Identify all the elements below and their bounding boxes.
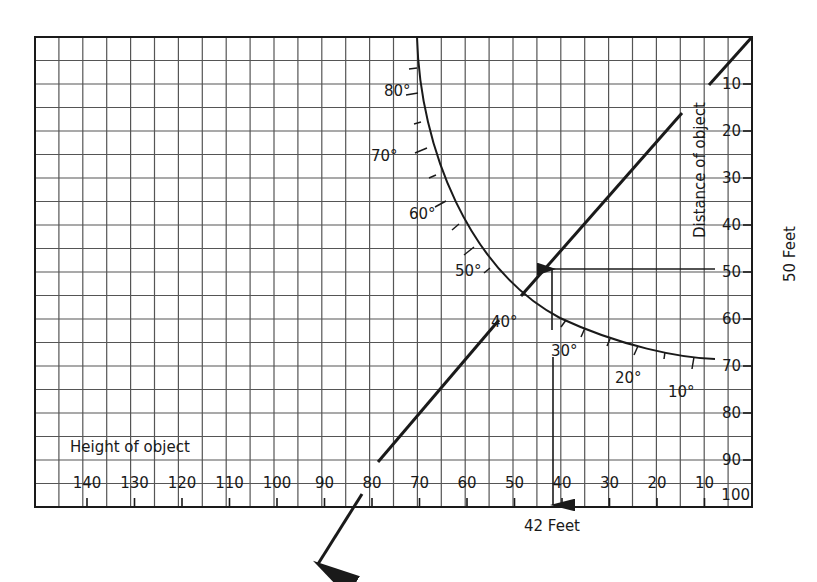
height-tick-label: 100 [263,474,292,492]
height-tick-label: 140 [73,474,102,492]
angle-arc-ticks [406,68,694,369]
angle-label: 60° [409,205,436,223]
distance-tick-label: 20 [722,122,741,140]
height-tick-label: 120 [168,474,197,492]
height-tick-label: 40 [552,474,571,492]
height-result-label: 42 Feet [524,517,580,535]
height-tick-label: 130 [120,474,149,492]
distance-tick-label: 50 [722,263,741,281]
height-tick-label: 10 [695,474,714,492]
sight-line [318,37,752,564]
angle-label: 70° [371,147,398,165]
height-tick-label: 70 [410,474,429,492]
height-tick-label: 20 [647,474,666,492]
distance-tick-label: 70 [722,357,741,375]
height-tick-label: 80 [362,474,381,492]
angle-label: 10° [668,383,695,401]
height-axis-title: Height of object [70,438,190,456]
height-tick-label: 90 [315,474,334,492]
distance-tick-label: 90 [722,451,741,469]
distance-axis-ticks [743,84,752,460]
distance-tick-label: 30 [722,169,741,187]
distance-tick-label: 80 [722,404,741,422]
angle-label: 30° [551,342,578,360]
distance-tick-label: 10 [722,75,741,93]
height-tick-label: 60 [457,474,476,492]
distance-tick-label: 100 [721,486,750,504]
distance-tick-label: 60 [722,310,741,328]
height-tick-label: 30 [600,474,619,492]
angle-arc [417,37,715,359]
grid-lines [35,37,752,507]
angle-label: 80° [384,82,411,100]
height-distance-nomogram: 102030405060708090100 140130120110100908… [0,0,817,582]
height-axis-ticks [87,498,705,507]
angle-label: 20° [615,369,642,387]
angle-label: 50° [455,262,482,280]
distance-axis-labels: 102030405060708090100 [721,75,750,504]
angle-labels: 80°70°60°50°40°30°20°10° [371,82,695,401]
height-tick-label: 50 [505,474,524,492]
angle-label: 40° [491,313,518,331]
distance-axis-title: Distance of object [691,102,709,238]
height-tick-label: 110 [215,474,244,492]
distance-tick-label: 40 [722,216,741,234]
distance-result-label: 50 Feet [781,226,799,282]
